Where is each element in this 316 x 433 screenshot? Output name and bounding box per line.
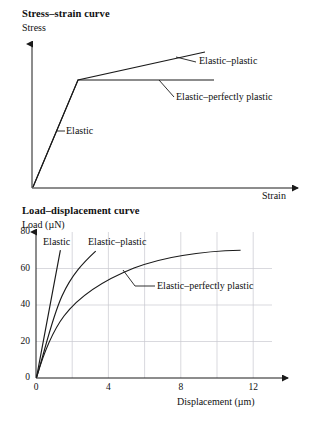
- load-displacement-plot: [0, 200, 316, 433]
- load-displacement-leader-elastic-perfectly-plastic: [123, 270, 155, 286]
- load-displacement-xtick-12: 12: [243, 382, 263, 392]
- load-displacement-curve-elastic-perfectly-plastic: [37, 250, 241, 377]
- stress-strain-plot: [0, 0, 316, 205]
- load-displacement-curve-elastic-plastic: [37, 251, 96, 377]
- load-displacement-xtick-0: 0: [26, 382, 46, 392]
- load-displacement-label-elastic: Elastic: [43, 236, 70, 247]
- stress-strain-curve-elastic-plastic: [33, 52, 205, 187]
- load-displacement-ytick-80: 80: [8, 226, 30, 236]
- load-displacement-curve-elastic: [37, 250, 61, 377]
- load-displacement-xtick-4: 4: [98, 382, 118, 392]
- load-displacement-ytick-0: 0: [8, 372, 30, 382]
- stress-strain-label-elastic: Elastic: [66, 125, 93, 136]
- load-displacement-ytick-60: 60: [8, 263, 30, 273]
- load-displacement-label-elastic-plastic: Elastic–plastic: [88, 236, 146, 247]
- load-displacement-ytick-40: 40: [8, 299, 30, 309]
- stress-strain-leader-elastic-plastic: [176, 57, 196, 62]
- load-displacement-label-elastic-perfectly-plastic: Elastic–perfectly plastic: [157, 280, 253, 291]
- figure-root: Stress–strain curve Stress: [0, 0, 316, 433]
- stress-strain-label-elastic-perfectly-plastic: Elastic–perfectly plastic: [176, 91, 272, 102]
- stress-strain-leader-elastic-perfectly-plastic: [159, 80, 174, 97]
- load-displacement-xtick-8: 8: [171, 382, 191, 392]
- stress-strain-label-elastic-plastic: Elastic–plastic: [199, 55, 257, 66]
- panel-load-displacement: Load–displacement curve Load (µN): [0, 200, 316, 433]
- panel-stress-strain: Stress–strain curve Stress: [0, 0, 316, 205]
- load-displacement-ytick-20: 20: [8, 336, 30, 346]
- load-displacement-x-axis-label: Displacement (µm): [177, 396, 255, 407]
